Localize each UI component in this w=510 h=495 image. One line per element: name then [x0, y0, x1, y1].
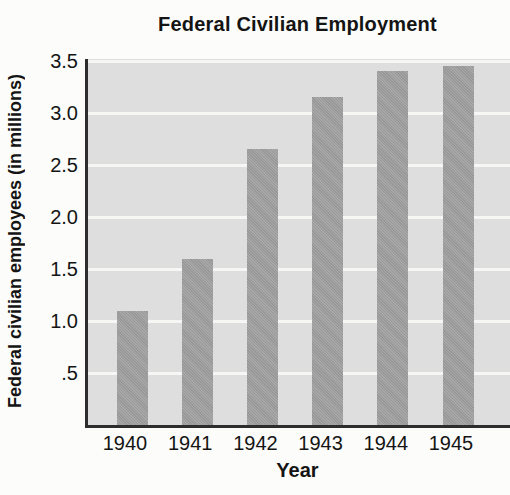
- x-tick-label-1940: 1940: [93, 432, 157, 454]
- gridline-3.5: [88, 60, 510, 63]
- x-tick-label-1942: 1942: [223, 432, 287, 454]
- plot-area: [85, 59, 510, 428]
- y-tick-label-2.0: 2.0: [0, 206, 78, 228]
- bar-1940: [117, 311, 148, 425]
- y-tick-label-2.5: 2.5: [0, 154, 78, 176]
- chart-title: Federal Civilian Employment: [85, 13, 510, 36]
- x-tick-label-1944: 1944: [354, 432, 418, 454]
- y-tick-label-1.0: 1.0: [0, 310, 78, 332]
- y-tick-label-1.5: 1.5: [0, 258, 78, 280]
- bar-1945: [443, 66, 474, 425]
- bar-1941: [182, 259, 213, 425]
- x-axis-ticks: 194019411942194319441945: [88, 432, 510, 454]
- y-tick-label-3.5: 3.5: [0, 50, 78, 72]
- bar-chart-figure: Federal Civilian Employment Federal civi…: [0, 0, 510, 495]
- x-tick-label-1941: 1941: [158, 432, 222, 454]
- x-axis-label: Year: [85, 459, 510, 482]
- y-axis-ticks: .51.01.52.02.53.03.5: [0, 59, 78, 428]
- x-tick-label-1943: 1943: [289, 432, 353, 454]
- y-tick-label-.5: .5: [0, 362, 78, 384]
- x-tick-label-1945: 1945: [419, 432, 483, 454]
- y-tick-label-3.0: 3.0: [0, 102, 78, 124]
- bar-1944: [377, 71, 408, 425]
- bar-1943: [312, 97, 343, 425]
- bar-1942: [247, 149, 278, 425]
